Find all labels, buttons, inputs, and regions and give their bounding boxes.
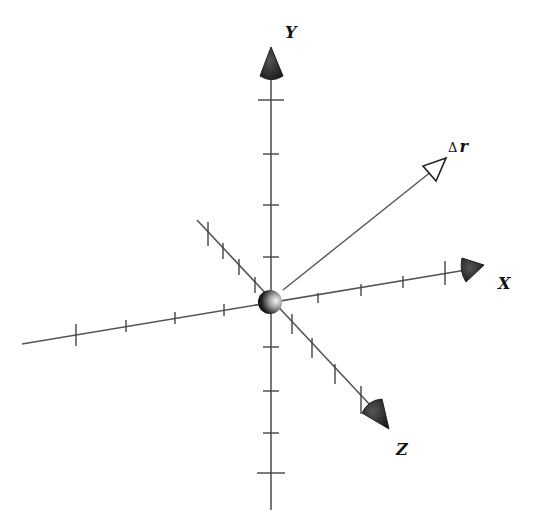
origin-group — [258, 290, 282, 314]
coordinate-diagram: YXZΔr — [0, 0, 533, 526]
y-arrowhead-icon — [260, 47, 283, 80]
x-axis-line — [22, 270, 466, 344]
z-axis — [197, 220, 389, 429]
z-axis-label: Z — [395, 440, 409, 459]
delta-symbol: Δ — [448, 140, 457, 155]
vector-variable: r — [459, 137, 469, 156]
x-axis-label: X — [497, 274, 511, 293]
z-arrowhead-icon — [362, 399, 389, 429]
axes-group — [22, 47, 484, 510]
delta-r-vector — [283, 158, 446, 290]
y-axis-label: Y — [285, 23, 298, 42]
vectors-group — [283, 158, 446, 290]
x-axis — [22, 258, 484, 346]
x-arrowhead-icon — [461, 258, 484, 282]
labels-group: YXZΔr — [285, 23, 511, 459]
delta-r-vector-line — [283, 171, 432, 290]
delta-r-label: Δr — [448, 137, 469, 156]
y-axis — [257, 47, 285, 510]
origin-sphere-icon — [258, 290, 282, 314]
delta-r-hollow-arrowhead-icon — [423, 158, 446, 181]
